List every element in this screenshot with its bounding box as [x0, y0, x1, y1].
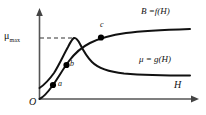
y-axis-tick-label-mu-max: μmax: [4, 31, 20, 43]
point-a-label: a: [58, 80, 62, 88]
x-axis-arrowhead: [191, 96, 199, 103]
mu-max-subscript: max: [9, 37, 20, 43]
point-c-marker: [98, 34, 104, 40]
b-curve-path: [40, 29, 191, 99]
b-curve-label: B =f(H): [141, 7, 170, 16]
point-c-label: c: [100, 21, 104, 29]
y-axis-arrowhead: [36, 8, 43, 16]
point-a-marker: [50, 82, 56, 88]
point-b-label: b: [70, 60, 74, 68]
mu-curve-label: μ = g(H): [139, 55, 171, 64]
origin-label: O: [29, 97, 36, 107]
point-b-marker: [63, 62, 69, 68]
x-axis-label: H: [174, 80, 181, 90]
figure-container: μmax O H B =f(H) μ = g(H) a b c: [0, 0, 206, 115]
